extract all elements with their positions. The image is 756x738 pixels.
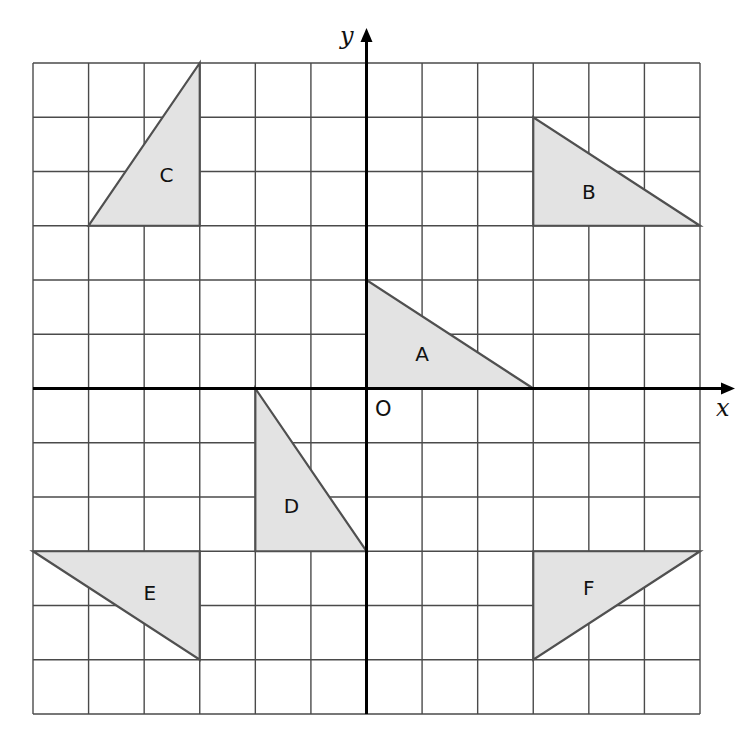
triangle-label-c: C	[159, 163, 173, 187]
triangle-label-b: B	[582, 180, 596, 204]
coordinate-grid-diagram: x y O ABCDEF	[0, 0, 756, 738]
y-axis-arrow-icon	[361, 28, 373, 42]
triangle-label-a: A	[415, 342, 429, 366]
triangle-label-d: D	[284, 494, 299, 518]
x-axis-arrow-icon	[721, 383, 735, 395]
triangle-label-f: F	[583, 576, 595, 600]
y-axis-label: y	[339, 22, 354, 50]
triangle-label-e: E	[143, 581, 156, 605]
origin-label: O	[375, 397, 392, 421]
x-axis-label: x	[716, 394, 730, 422]
